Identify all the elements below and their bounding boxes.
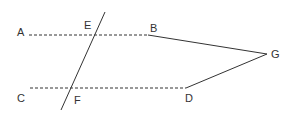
label-d: D — [185, 92, 193, 104]
label-g: G — [271, 48, 280, 60]
label-c: C — [17, 92, 25, 104]
geometry-diagram: A E B G C F D — [0, 0, 295, 118]
segment-dg — [186, 54, 267, 88]
label-b: B — [150, 22, 157, 34]
label-a: A — [17, 26, 25, 38]
label-f: F — [74, 94, 81, 106]
transversal-ef — [61, 12, 105, 110]
label-e: E — [84, 19, 91, 31]
segment-bg — [148, 35, 267, 54]
